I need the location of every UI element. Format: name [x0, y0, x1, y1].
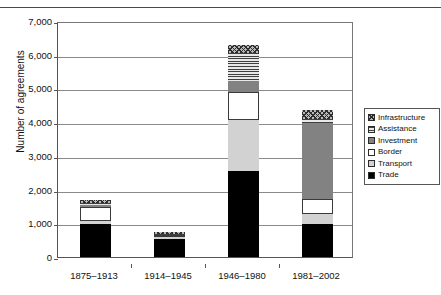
light-gray-swatch: [368, 160, 375, 167]
bar-3: [228, 45, 259, 258]
legend-label: Trade: [378, 171, 399, 179]
legend-item-investment[interactable]: Investment: [368, 135, 437, 146]
legend-label: Infrastructure: [378, 114, 425, 122]
y-tick-mark: [54, 90, 58, 91]
bar-segment-investment: [302, 123, 333, 199]
x-tick-mark: [131, 264, 132, 268]
chart-legend: InfrastructureAssistanceInvestmentBorder…: [364, 108, 440, 185]
x-tick-label: 1946–1980: [218, 271, 266, 281]
checkerboard-swatch: [368, 114, 375, 121]
bar-segment-trade: [302, 224, 333, 257]
bar-segment-transport: [228, 120, 259, 171]
white-swatch: [368, 149, 375, 156]
black-swatch: [368, 172, 375, 179]
x-tick-mark: [279, 264, 280, 268]
solid-gray-swatch: [368, 137, 375, 144]
stacked-bar-chart: Number of agreements 7,0006,0005,0004,00…: [0, 0, 441, 295]
bar-segment-investment: [228, 81, 259, 93]
bar-segment-trade: [154, 239, 185, 257]
y-tick-mark: [54, 23, 58, 24]
y-axis-tick-labels: 7,0006,0005,0004,0003,0002,0001,0000: [0, 22, 52, 258]
x-axis-tick-labels: 1875–19131914–19451946–19801981–2002: [57, 264, 353, 284]
bar-segment-border: [228, 92, 259, 120]
bar-segment-border: [302, 199, 333, 214]
legend-label: Investment: [378, 137, 417, 145]
y-tick-label: 6,000: [28, 51, 52, 61]
y-tick-label: 5,000: [28, 84, 52, 94]
legend-label: Transport: [378, 160, 412, 168]
y-tick-label: 7,000: [28, 17, 52, 27]
y-tick-label: 1,000: [28, 219, 52, 229]
x-tick-label: 1875–1913: [70, 271, 118, 281]
y-tick-mark: [54, 259, 58, 260]
legend-item-trade[interactable]: Trade: [368, 170, 437, 181]
horizontal-stripes-swatch: [368, 126, 375, 133]
x-tick-label: 1981–2002: [292, 271, 340, 281]
y-tick-mark: [54, 225, 58, 226]
legend-label: Border: [378, 148, 402, 156]
y-tick-mark: [54, 192, 58, 193]
plot-area: [57, 22, 353, 258]
legend-item-infrastructure[interactable]: Infrastructure: [368, 112, 437, 123]
y-tick-mark: [54, 158, 58, 159]
legend-item-border[interactable]: Border: [368, 147, 437, 158]
bar-1: [80, 200, 111, 257]
legend-label: Assistance: [378, 125, 417, 133]
bar-segment-trade: [228, 171, 259, 257]
bar-4: [302, 110, 333, 257]
legend-item-assistance[interactable]: Assistance: [368, 124, 437, 135]
y-tick-label: 0: [47, 253, 52, 263]
bar-segment-trade: [80, 224, 111, 257]
legend-item-transport[interactable]: Transport: [368, 158, 437, 169]
y-tick-mark: [54, 124, 58, 125]
x-tick-mark: [205, 264, 206, 268]
bar-segment-assistance: [228, 53, 259, 80]
y-tick-label: 3,000: [28, 152, 52, 162]
gridline: [58, 90, 352, 91]
y-tick-label: 4,000: [28, 118, 52, 128]
y-tick-mark: [54, 57, 58, 58]
bar-2: [154, 232, 185, 257]
bar-segment-transport: [302, 214, 333, 224]
x-tick-label: 1914–1945: [144, 271, 192, 281]
bar-segment-infrastructure: [228, 45, 259, 54]
bar-segment-border: [80, 207, 111, 221]
y-tick-label: 2,000: [28, 186, 52, 196]
gridline: [58, 57, 352, 58]
bar-segment-infrastructure: [302, 110, 333, 119]
